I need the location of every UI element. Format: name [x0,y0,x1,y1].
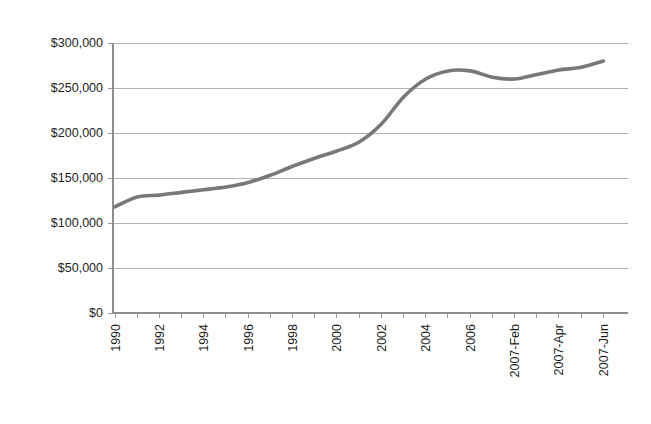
y-axis-labels: $0$50,000$100,000$150,000$200,000$250,00… [51,36,103,320]
x-tick-label: 2000 [330,324,344,352]
x-tick-label: 2006 [464,324,478,352]
y-tick-label: $300,000 [51,36,103,50]
x-tick-label: 1996 [242,324,256,352]
x-tick-label: 2002 [375,324,389,352]
x-tick-label: 2007-Jun [597,324,611,376]
y-axis-ticks [108,43,113,313]
x-tick-label: 2004 [419,324,433,352]
x-tick-label: 2007-Apr [552,324,566,375]
x-tick-label: 1998 [286,324,300,352]
x-tick-label: 1994 [197,324,211,352]
x-tick-label: 1990 [109,324,123,352]
y-tick-label: $150,000 [51,171,103,185]
y-tick-label: $200,000 [51,126,103,140]
line-chart: $0$50,000$100,000$150,000$200,000$250,00… [0,0,651,424]
x-tick-label: 1992 [153,324,167,352]
y-tick-label: $50,000 [58,261,103,275]
y-tick-label: $0 [89,306,103,320]
gridlines [113,43,628,268]
y-tick-label: $250,000 [51,81,103,95]
chart-canvas: $0$50,000$100,000$150,000$200,000$250,00… [0,0,651,424]
x-axis-labels: 1990199219941996199820002002200420062007… [109,324,611,378]
data-series-line [115,61,603,207]
x-axis-ticks [115,313,603,318]
y-tick-label: $100,000 [51,216,103,230]
x-tick-label: 2007-Feb [508,324,522,378]
